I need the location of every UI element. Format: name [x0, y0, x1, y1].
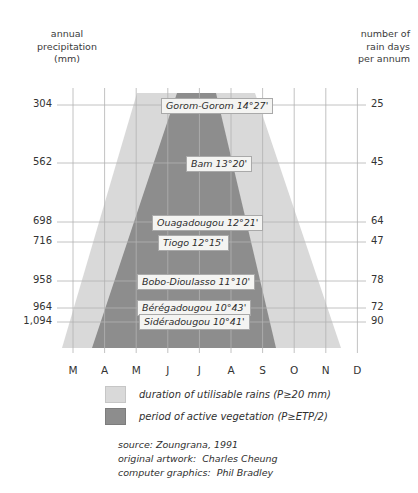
legend-label: period of active vegetation (P≥ETP/2) [139, 411, 328, 422]
month-label: O [285, 364, 303, 376]
month-label: M [127, 364, 145, 376]
left-axis-value: 562 [0, 156, 52, 167]
right-axis-value: 25 [371, 98, 411, 109]
station-label: Bobo-Dioulasso 11°10' [137, 274, 255, 290]
right-axis-value: 64 [371, 215, 411, 226]
credit-line: computer graphics: Phil Bradley [118, 466, 278, 480]
right-axis-value: 90 [371, 315, 411, 326]
left-axis-value: 1,094 [0, 315, 52, 326]
month-label: J [190, 364, 208, 376]
legend-swatch-dark [105, 408, 126, 425]
legend: duration of utilisable rains (P≥20 mm)pe… [105, 386, 331, 430]
legend-item: duration of utilisable rains (P≥20 mm) [105, 386, 331, 403]
right-axis-value: 72 [371, 301, 411, 312]
legend-label: duration of utilisable rains (P≥20 mm) [139, 389, 331, 400]
legend-swatch-light [105, 386, 126, 403]
month-label: M [64, 364, 82, 376]
station-label: Gorom-Gorom 14°27' [161, 98, 273, 114]
legend-item: period of active vegetation (P≥ETP/2) [105, 408, 331, 425]
left-axis-value: 964 [0, 301, 52, 312]
right-axis-value: 78 [371, 274, 411, 285]
left-axis-value: 698 [0, 215, 52, 226]
month-label: A [222, 364, 240, 376]
credit-line: original artwork: Charles Cheung [118, 452, 278, 466]
right-axis-value: 47 [371, 235, 411, 246]
month-label: D [348, 364, 366, 376]
month-label: J [159, 364, 177, 376]
station-label: Bam 13°20' [186, 156, 252, 172]
station-label: Tiogo 12°15' [158, 235, 229, 251]
month-label: A [96, 364, 114, 376]
credits-block: source: Zoungrana, 1991original artwork:… [118, 438, 278, 480]
month-label: N [317, 364, 335, 376]
left-axis-value: 958 [0, 274, 52, 285]
left-axis-value: 716 [0, 235, 52, 246]
credit-line: source: Zoungrana, 1991 [118, 438, 278, 452]
station-label: Sidéradougou 10°41' [139, 314, 250, 330]
station-label: Ouagadougou 12°21' [152, 215, 263, 231]
right-axis-value: 45 [371, 156, 411, 167]
month-label: S [254, 364, 272, 376]
left-axis-value: 304 [0, 98, 52, 109]
chart-canvas: annual precipitation (mm) number of rain… [0, 0, 418, 493]
